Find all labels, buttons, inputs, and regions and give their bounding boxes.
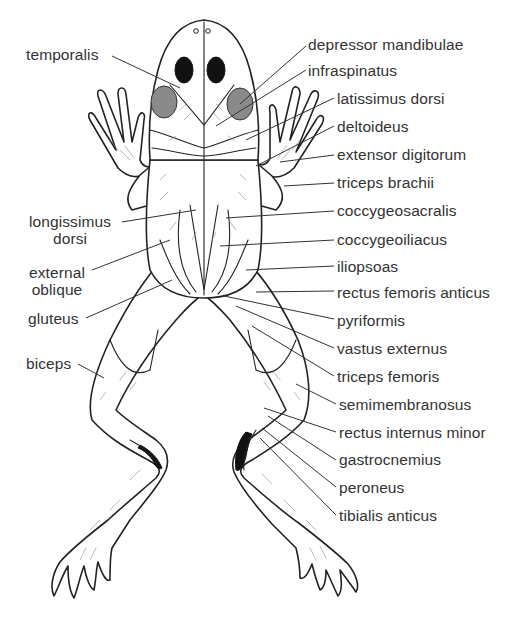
- label-triceps-brachii: triceps brachii: [337, 174, 434, 191]
- label-temporalis: temporalis: [26, 46, 99, 63]
- label-longissimus-dorsi-line2: dorsi: [20, 230, 120, 247]
- label-gastrocnemius: gastrocnemius: [339, 451, 441, 468]
- label-vastus-externus: vastus externus: [337, 340, 447, 357]
- head: [149, 20, 258, 160]
- label-rectus-internus-minor: rectus internus minor: [339, 424, 486, 441]
- label-infraspinatus: infraspinatus: [308, 62, 397, 79]
- frog-muscle-illustration: [0, 0, 526, 618]
- left-forelimb: [89, 88, 152, 210]
- trunk: [146, 160, 262, 298]
- label-external-oblique-line1: external: [24, 264, 90, 281]
- label-external-oblique: external oblique: [24, 264, 90, 298]
- label-external-oblique-line2: oblique: [24, 281, 90, 298]
- label-gluteus: gluteus: [28, 310, 79, 327]
- label-extensor-digitorum: extensor digitorum: [337, 146, 466, 163]
- left-hindlimb: [52, 250, 206, 598]
- label-semimembranosus: semimembranosus: [339, 396, 471, 413]
- label-peroneus: peroneus: [339, 479, 404, 496]
- label-depressor-mandibulae: depressor mandibulae: [308, 36, 463, 53]
- label-pyriformis: pyriformis: [337, 312, 405, 329]
- label-coccygeosacralis: coccygeosacralis: [337, 202, 457, 219]
- label-rectus-femoris-anticus: rectus femoris anticus: [337, 284, 490, 301]
- label-tibialis-anticus: tibialis anticus: [339, 507, 437, 524]
- label-latissimus-dorsi: latissimus dorsi: [337, 90, 445, 107]
- label-deltoideus: deltoideus: [337, 118, 409, 135]
- label-longissimus-dorsi: longissimus dorsi: [20, 213, 120, 247]
- label-biceps: biceps: [26, 355, 71, 372]
- label-coccygeoiliacus: coccygeoiliacus: [337, 231, 447, 248]
- label-longissimus-dorsi-line1: longissimus: [20, 213, 120, 230]
- label-triceps-femoris: triceps femoris: [337, 368, 439, 385]
- label-iliopsoas: iliopsoas: [337, 258, 398, 275]
